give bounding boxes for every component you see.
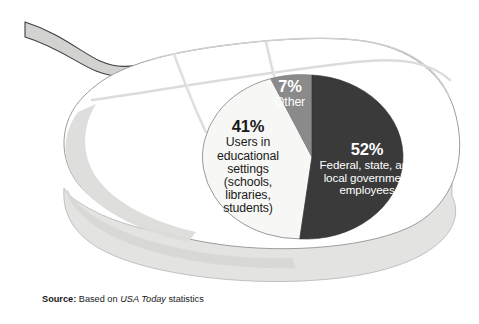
pie-label-education-percent: 41% (196, 118, 300, 135)
pie-label-education-line-4: (schools, (224, 175, 272, 189)
pie-label-education-line-5: libraries, (225, 188, 270, 202)
pie-label-government-line-3: employees (339, 183, 394, 196)
pie-label-education: 41% Users in educational settings (schoo… (196, 118, 300, 215)
source-suffix: statistics (166, 294, 204, 304)
source-prefix: Based on (76, 294, 120, 304)
source-label: Source: (42, 294, 76, 304)
pie-label-government-line-2: local government (324, 171, 411, 184)
source-credit: Source: Based on USA Today statistics (42, 294, 204, 304)
mouse-pie-chart-figure: 41% Users in educational settings (schoo… (0, 0, 479, 324)
pie-label-other-percent: 7% (256, 78, 324, 95)
pie-label-education-line-2: educational (217, 149, 279, 163)
source-publication: USA Today (120, 294, 166, 304)
pie-label-government-line-1: Federal, state, and (320, 158, 415, 171)
pie-label-government: 52% Federal, state, and local government… (311, 141, 423, 196)
pie-label-other-line-1: Other (275, 95, 305, 109)
pie-label-education-line-6: students) (223, 201, 273, 215)
pie-label-government-percent: 52% (311, 141, 423, 158)
pie-label-education-line-1: Users in (226, 135, 270, 149)
pie-label-education-line-3: settings (227, 162, 269, 176)
pie-label-other: 7% Other (256, 78, 324, 110)
